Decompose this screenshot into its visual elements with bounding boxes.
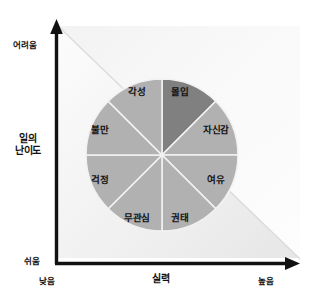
x-axis-tick-high: 높음 (258, 276, 274, 286)
y-axis-tick-hard: 어려움 (13, 40, 36, 50)
pie-sectors (86, 79, 238, 231)
pie-slice-label: 몰입 (171, 86, 188, 97)
flow-model-diagram: 일의 난이도 실력 어려움 쉬움 낮음 높음 몰입자신감여유권태무관심걱정불만각… (0, 0, 314, 305)
x-axis-title: 실력 (133, 273, 189, 285)
y-axis-title: 일의 난이도 (6, 133, 50, 157)
pie-slice-label: 무관심 (124, 212, 150, 223)
x-axis-tick-low: 낮음 (39, 276, 55, 286)
y-axis-title-line1: 일의 (19, 133, 36, 144)
pie-slice-label: 걱정 (91, 174, 108, 185)
pie-slice-label: 권태 (171, 212, 188, 223)
y-axis-tick-easy: 쉬움 (24, 256, 40, 266)
pie-slice-label: 여유 (207, 174, 224, 185)
pie-slice-label: 각성 (128, 86, 145, 97)
x-axis-arrowhead (285, 257, 300, 270)
pie-slice-label: 자신감 (203, 124, 229, 135)
y-axis-title-line2: 난이도 (6, 145, 50, 157)
pie-slice-label: 불만 (91, 124, 108, 135)
